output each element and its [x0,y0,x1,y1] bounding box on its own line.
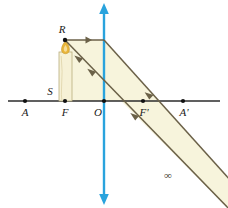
point-F-prime [141,99,145,103]
label-O: O [94,106,102,118]
emergent-beam-lower-region [104,40,228,208]
label-S: S [47,85,53,97]
point-A [23,99,27,103]
label-A: A [21,106,29,118]
lens-arrow-bottom-icon [99,194,109,205]
label-F: F [61,106,69,118]
ray-through-optical-center [65,40,228,208]
label-infinity: ∞ [164,169,172,181]
label-A-prime: A' [178,106,189,118]
ray-diagram-canvas: A F O F' A' R S ∞ [0,0,228,208]
label-R: R [58,23,66,35]
candle-body [59,52,72,101]
label-F-prime: F' [138,106,149,118]
optics-figure: A F O F' A' R S ∞ Banco de imagens/ Arqu… [0,0,228,208]
point-O [102,99,106,103]
point-R [63,38,67,42]
point-F [63,99,67,103]
lens-arrow-top-icon [99,3,109,14]
point-A-prime [181,99,185,103]
